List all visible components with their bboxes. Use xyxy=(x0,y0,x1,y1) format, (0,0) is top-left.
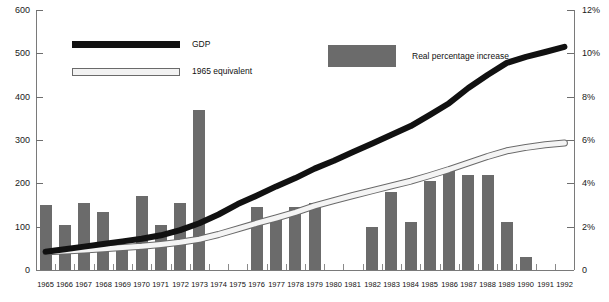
x-axis-tick-label: 1967 xyxy=(74,281,93,289)
bar xyxy=(193,110,205,270)
y-axis-right-tick xyxy=(567,227,574,228)
bar xyxy=(59,225,71,271)
chart-canvas: 010020030040050060002%4%6%8%10%12%196519… xyxy=(0,0,609,302)
x-axis-tick xyxy=(171,264,172,270)
x-axis-tick-label: 1965 xyxy=(36,281,55,289)
bar xyxy=(309,203,321,270)
bar xyxy=(116,244,128,270)
bar xyxy=(385,192,397,270)
x-axis-tick-label: 1971 xyxy=(151,281,170,289)
y-axis-right-tick-label: 6% xyxy=(582,136,609,145)
x-axis-tick xyxy=(401,264,402,270)
x-axis-tick-label: 1972 xyxy=(171,281,190,289)
x-axis-tick xyxy=(209,264,210,270)
x-axis-tick-label: 1975 xyxy=(228,281,247,289)
legend-swatch-1965-equivalent xyxy=(72,68,180,76)
x-axis-tick xyxy=(286,264,287,270)
bar xyxy=(520,257,532,270)
y-axis-right-tick-label: 0 xyxy=(582,266,609,275)
x-axis-tick-label: 1988 xyxy=(478,281,497,289)
x-axis-tick-label: 1989 xyxy=(497,281,516,289)
x-axis-tick xyxy=(343,264,344,270)
x-axis-tick-label: 1982 xyxy=(363,281,382,289)
bar xyxy=(482,175,494,270)
x-axis-tick-label: 1983 xyxy=(382,281,401,289)
x-axis-tick-label: 1973 xyxy=(190,281,209,289)
y-axis-right-tick-label: 2% xyxy=(582,223,609,232)
y-axis-left-tick-label: 500 xyxy=(4,49,30,58)
x-axis-tick-label: 1984 xyxy=(401,281,420,289)
x-axis-tick-label: 1985 xyxy=(420,281,439,289)
x-axis-tick xyxy=(74,264,75,270)
x-axis-tick-label: 1970 xyxy=(132,281,151,289)
legend-swatch-gdp xyxy=(72,41,180,48)
x-axis-tick xyxy=(55,264,56,270)
y-axis-right-line xyxy=(574,10,575,270)
x-axis-baseline xyxy=(36,270,574,271)
x-axis-tick-label: 1976 xyxy=(247,281,266,289)
bar xyxy=(251,207,263,270)
legend-label-1965-equivalent: 1965 equivalent xyxy=(192,67,252,76)
y-axis-left-tick-label: 100 xyxy=(4,223,30,232)
x-axis-tick-label: 1990 xyxy=(516,281,535,289)
x-axis-tick-label: 1969 xyxy=(113,281,132,289)
x-axis-tick xyxy=(113,264,114,270)
x-axis-tick xyxy=(440,264,441,270)
y-axis-left-tick xyxy=(36,10,43,11)
y-axis-left xyxy=(2,0,30,302)
y-axis-left-tick-label: 600 xyxy=(4,6,30,15)
y-axis-right-tick-label: 4% xyxy=(582,179,609,188)
x-axis-tick xyxy=(94,264,95,270)
x-axis-tick xyxy=(382,264,383,270)
legend-swatch-real-percentage-increase xyxy=(328,45,396,67)
x-axis-tick-label: 1966 xyxy=(55,281,74,289)
y-axis-left-tick-label: 0 xyxy=(4,266,30,275)
bar xyxy=(136,196,148,270)
y-axis-left-tick xyxy=(36,53,43,54)
x-axis-tick-label: 1978 xyxy=(286,281,305,289)
bar xyxy=(40,205,52,270)
x-axis-tick xyxy=(132,264,133,270)
x-axis-tick xyxy=(536,264,537,270)
x-axis-tick xyxy=(190,264,191,270)
y-axis-left-tick-label: 400 xyxy=(4,93,30,102)
x-axis-tick-label: 1968 xyxy=(94,281,113,289)
x-axis-tick xyxy=(228,264,229,270)
x-axis-tick xyxy=(459,264,460,270)
y-axis-right-tick-label: 10% xyxy=(582,49,609,58)
bar xyxy=(501,222,513,270)
x-axis-tick-label: 1992 xyxy=(555,281,574,289)
y-axis-left-tick-label: 300 xyxy=(4,136,30,145)
x-axis-tick-label: 1981 xyxy=(343,281,362,289)
legend-label-gdp: GDP xyxy=(192,40,210,49)
bar xyxy=(443,170,455,270)
y-axis-right-tick xyxy=(567,140,574,141)
bar xyxy=(155,225,167,271)
bar xyxy=(462,175,474,270)
x-axis-tick xyxy=(516,264,517,270)
y-axis-left-tick xyxy=(36,140,43,141)
bar xyxy=(174,203,186,270)
x-axis-tick xyxy=(497,264,498,270)
y-axis-left-tick xyxy=(36,183,43,184)
x-axis-tick xyxy=(420,264,421,270)
x-axis-tick-label: 1987 xyxy=(459,281,478,289)
legend-label-real-percentage-increase: Real percentage increase xyxy=(412,52,509,61)
x-axis-tick-label: 1986 xyxy=(440,281,459,289)
y-axis-right xyxy=(575,0,607,302)
bar xyxy=(366,227,378,270)
y-axis-right-tick xyxy=(567,53,574,54)
y-axis-right-tick-label: 8% xyxy=(582,93,609,102)
bar xyxy=(270,220,282,270)
x-axis-tick xyxy=(478,264,479,270)
bar xyxy=(405,222,417,270)
y-axis-left-tick xyxy=(36,97,43,98)
x-axis-tick xyxy=(324,264,325,270)
bar xyxy=(97,212,109,271)
x-axis-tick xyxy=(363,264,364,270)
x-axis-tick-label: 1991 xyxy=(536,281,555,289)
y-axis-right-tick xyxy=(567,97,574,98)
bar xyxy=(424,181,436,270)
y-axis-right-tick xyxy=(567,183,574,184)
x-axis-tick xyxy=(267,264,268,270)
